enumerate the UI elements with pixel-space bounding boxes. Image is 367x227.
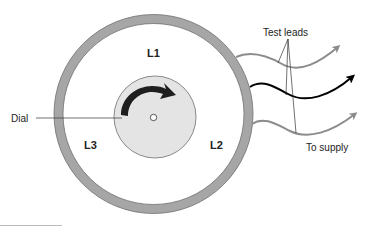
label-l2: L2: [210, 139, 223, 151]
label-dial: Dial: [11, 113, 28, 124]
test-leads: [236, 47, 355, 135]
dial-center-hole: [150, 114, 156, 120]
test-leads-leader-lines: [278, 39, 296, 133]
label-l1: L1: [147, 47, 160, 59]
lead-middle: [250, 77, 352, 98]
lead-bottom: [252, 114, 355, 135]
label-test-leads: Test leads: [263, 27, 308, 38]
phase-rotation-meter-diagram: L1 L3 L2 Dial Test leads To supply: [0, 0, 367, 227]
dial: [114, 76, 196, 158]
label-l3: L3: [84, 139, 97, 151]
label-to-supply: To supply: [306, 142, 348, 153]
